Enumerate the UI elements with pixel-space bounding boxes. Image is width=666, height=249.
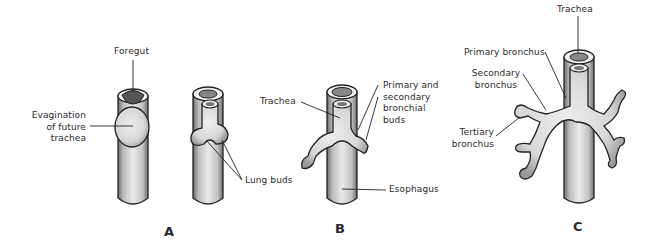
label-esophagus: Esophagus [389,184,439,196]
diagram-artwork [0,0,666,249]
label-lung-buds: Lung buds [245,175,293,187]
label-primary-and-secondary-bronchial-buds: Primary and secondary bronchial buds [383,80,439,126]
panel-label-a: A [164,224,174,239]
panel-label-c: C [573,219,583,234]
label-line: of future [30,122,86,134]
label-tertiary-bronchus: Tertiary bronchus [446,127,494,150]
panel-label-b: B [335,221,345,236]
panel-b-esophagus-trachea [302,85,368,204]
label-secondary-bronchus: Secondary bronchus [468,68,524,91]
panel-c-bronchial-tree [515,50,626,203]
label-line: Secondary [468,68,524,80]
label-line: bronchus [468,80,524,92]
label-evagination-of-future-trachea: Evagination of future trachea [30,110,86,145]
label-primary-bronchus: Primary bronchus [464,47,545,59]
label-line: Tertiary [446,127,494,139]
label-trachea-b: Trachea [260,96,296,108]
label-line: Primary and [383,80,439,92]
label-trachea-c: Trachea [557,4,593,16]
label-line: secondary [383,92,439,104]
label-line: trachea [30,133,86,145]
panel-a-foregut-tube [115,89,149,204]
label-line: bronchial [383,103,439,115]
label-line: buds [383,115,439,127]
label-foregut: Foregut [114,46,149,58]
label-line: bronchus [446,139,494,151]
label-line: Evagination [30,110,86,122]
panel-a-lung-bud-tube [191,87,228,204]
